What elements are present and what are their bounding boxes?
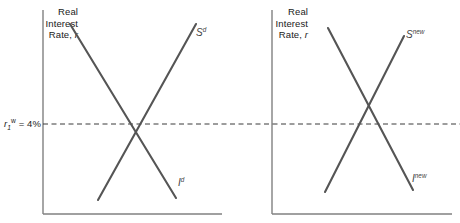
saving-curve-right (325, 36, 404, 192)
panel-after: Real Interest Rate, r Snew Inew (230, 0, 460, 223)
rate-subscript: 1 (7, 124, 11, 131)
investment-curve-right (328, 28, 413, 190)
panel-before: Real Interest Rate, r r1w = 4% Sd Id (0, 0, 230, 223)
saving-curve-label-left: Sd (196, 26, 206, 38)
saving-curve-label-right: Snew (406, 28, 424, 40)
rate-equals: = (16, 118, 27, 129)
investment-curve-label-right: Inew (412, 172, 427, 184)
saving-curve-left (98, 24, 196, 200)
loanable-funds-figure: Real Interest Rate, r r1w = 4% Sd Id (0, 0, 460, 223)
investment-curve-label-left: Id (178, 176, 184, 188)
rate-value: 4% (27, 118, 41, 129)
investment-curve-left (70, 24, 176, 198)
world-rate-label-left: r1w = 4% (4, 117, 41, 131)
plot-area-right (230, 0, 460, 223)
